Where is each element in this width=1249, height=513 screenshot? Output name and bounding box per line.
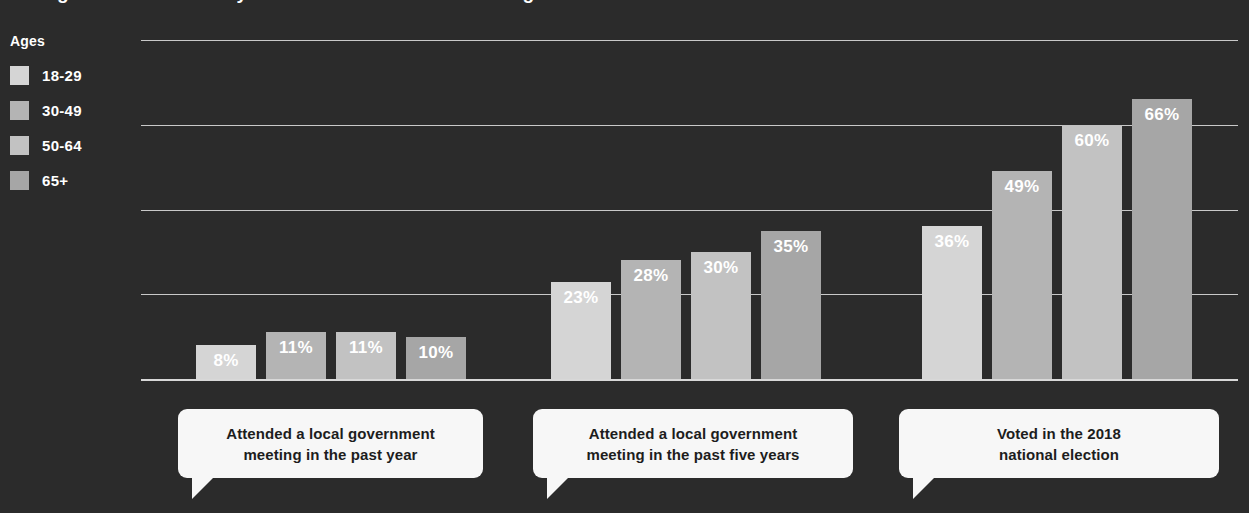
callout-tail: [913, 477, 935, 499]
category-callout: Voted in the 2018national election: [899, 409, 1219, 478]
bar[interactable]: 36%: [922, 226, 982, 379]
bar[interactable]: 60%: [1062, 125, 1122, 379]
category-label-line: national election: [909, 444, 1209, 465]
bar[interactable]: 66%: [1132, 99, 1192, 379]
chart-legend: Ages 18-29 30-49 50-64 65+: [10, 33, 135, 198]
legend-item-label: 30-49: [42, 102, 82, 119]
bar-value-label: 49%: [992, 177, 1052, 197]
bar-value-label: 11%: [336, 338, 396, 358]
legend-item-18-29[interactable]: 18-29: [10, 58, 135, 93]
legend-item-label: 65+: [42, 172, 68, 189]
callout-tail: [547, 477, 569, 499]
chart-root: Younger adults less likely to vote or at…: [0, 0, 1249, 513]
bar[interactable]: 11%: [266, 332, 326, 379]
bar-value-label: 23%: [551, 288, 611, 308]
legend-swatch-icon: [10, 101, 29, 120]
bars-layer: 8%11%11%10%23%28%30%35%36%49%60%66%: [141, 40, 1238, 381]
category-label-line: Attended a local government: [543, 423, 843, 444]
legend-item-label: 50-64: [42, 137, 82, 154]
bar[interactable]: 10%: [406, 337, 466, 379]
bar-value-label: 35%: [761, 237, 821, 257]
legend-swatch-icon: [10, 171, 29, 190]
bar[interactable]: 30%: [691, 252, 751, 379]
bar[interactable]: 28%: [621, 260, 681, 379]
category-label: Voted in the 2018national election: [909, 423, 1209, 465]
plot-area: 8%11%11%10%23%28%30%35%36%49%60%66%: [141, 40, 1238, 381]
bar-value-label: 10%: [406, 343, 466, 363]
category-callout: Attended a local governmentmeeting in th…: [178, 409, 483, 478]
bar-value-label: 8%: [196, 351, 256, 371]
callout-tail: [192, 477, 214, 499]
bar[interactable]: 35%: [761, 231, 821, 379]
category-label-line: Voted in the 2018: [909, 423, 1209, 444]
bar[interactable]: 11%: [336, 332, 396, 379]
bar-value-label: 36%: [922, 232, 982, 252]
bar-value-label: 28%: [621, 266, 681, 286]
category-callouts: Attended a local governmentmeeting in th…: [0, 409, 1249, 513]
bar[interactable]: 49%: [992, 171, 1052, 379]
category-label-line: Attended a local government: [188, 423, 473, 444]
category-label-line: meeting in the past five years: [543, 444, 843, 465]
legend-item-50-64[interactable]: 50-64: [10, 128, 135, 163]
legend-title: Ages: [10, 33, 135, 49]
category-label: Attended a local governmentmeeting in th…: [543, 423, 843, 465]
axis-baseline: [141, 379, 1238, 381]
legend-item-65-plus[interactable]: 65+: [10, 163, 135, 198]
bar-value-label: 30%: [691, 258, 751, 278]
page-title: Younger adults less likely to vote or at…: [10, 0, 545, 4]
legend-item-label: 18-29: [42, 67, 82, 84]
bar-value-label: 11%: [266, 338, 326, 358]
category-label-line: meeting in the past year: [188, 444, 473, 465]
legend-swatch-icon: [10, 136, 29, 155]
bar[interactable]: 23%: [551, 282, 611, 379]
bar[interactable]: 8%: [196, 345, 256, 379]
category-label: Attended a local governmentmeeting in th…: [188, 423, 473, 465]
category-callout: Attended a local governmentmeeting in th…: [533, 409, 853, 478]
bar-value-label: 60%: [1062, 131, 1122, 151]
legend-swatch-icon: [10, 66, 29, 85]
bar-value-label: 66%: [1132, 105, 1192, 125]
legend-item-30-49[interactable]: 30-49: [10, 93, 135, 128]
